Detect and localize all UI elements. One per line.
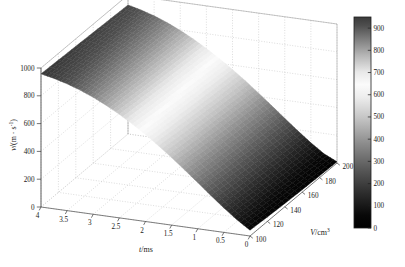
colorbar-tick-label: 800 (373, 47, 384, 55)
y-tickmark (302, 192, 305, 194)
y-tickmark (250, 236, 253, 238)
z-tick-label: 1000 (20, 65, 35, 73)
y-tickmark (337, 163, 340, 165)
y-tick-label: 100 (256, 236, 267, 244)
colorbar-tick-label: 300 (373, 158, 384, 166)
x-tickmark (170, 225, 172, 228)
x-tickmark (91, 214, 93, 217)
colorbar-tick-label: 400 (373, 136, 384, 144)
x-tick-label: 0.5 (216, 237, 225, 245)
colorbar-tick-label: 100 (373, 202, 384, 210)
z-axis-title: v/(m · s-1) (8, 119, 18, 151)
surface-mesh (41, 5, 337, 230)
x-tickmark (196, 229, 198, 232)
z-tick-label: 200 (24, 176, 35, 184)
x-tickmark (39, 207, 41, 210)
colorbar-tick-label: 200 (373, 180, 384, 188)
x-tickmark (248, 236, 250, 239)
colorbar-tick-label: 900 (373, 25, 384, 33)
x-tick-label: 3.5 (59, 216, 68, 224)
x-tick-label: 4 (36, 212, 40, 220)
y-tickmark (267, 221, 270, 223)
x-tickmark (65, 211, 67, 214)
z-tick-label: 400 (24, 148, 35, 156)
colorbar-tick-label: 600 (373, 91, 384, 99)
colorbar: 0100200300400500600700800900 (354, 17, 385, 233)
x-tick-label: 3 (88, 219, 92, 227)
x-tickmark (144, 222, 146, 225)
wall-left-gridline-z (41, 106, 128, 179)
y-tick-label: 140 (290, 207, 301, 215)
y-tickmark (320, 178, 323, 180)
z-tick-label: 0 (31, 204, 35, 212)
surface-plot: 43.532.521.510.5010012014016018020002004… (0, 0, 405, 267)
x-tick-label: 1.5 (164, 230, 173, 238)
x-tick-label: 2.5 (111, 223, 120, 231)
colorbar-gradient (354, 17, 371, 228)
x-tick-label: 2 (140, 227, 144, 235)
colorbar-tick-label: 0 (373, 225, 377, 233)
y-axis-title: V/cm3 (310, 227, 330, 237)
x-tick-label: 1 (192, 234, 196, 242)
x-tick-label: 0 (245, 241, 249, 249)
x-tickmark (222, 232, 224, 235)
colorbar-tick-label: 700 (373, 69, 384, 77)
y-tickmark (285, 207, 288, 209)
y-tick-label: 180 (325, 178, 336, 186)
x-tickmark (118, 218, 120, 221)
x-axis-title: t/ms (139, 245, 153, 254)
y-tick-label: 200 (343, 163, 354, 171)
figure-canvas: 43.532.521.510.5010012014016018020002004… (0, 0, 405, 267)
colorbar-tick-label: 500 (373, 113, 384, 121)
y-tick-label: 120 (273, 221, 284, 229)
y-tick-label: 160 (308, 192, 319, 200)
z-tick-label: 600 (24, 120, 35, 128)
z-tick-label: 800 (24, 92, 35, 100)
